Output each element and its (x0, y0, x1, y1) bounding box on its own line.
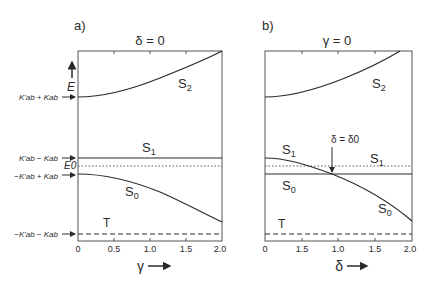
panel-b-title: γ = 0 (323, 33, 352, 48)
panel-b: b) γ = 0 δ = δ0 S2 S1 S1 S0 S0 T 0 1.5 1… (262, 18, 416, 274)
label-s0: S0 (125, 184, 139, 201)
panel-a-title: δ = 0 (135, 33, 164, 48)
label-t-b: T (278, 217, 286, 231)
marker-e0: E0 (64, 160, 77, 171)
label-s2-b: S2 (372, 76, 386, 93)
panel-b-label: b) (262, 18, 274, 33)
label-s2: S2 (178, 76, 192, 93)
label-t: T (103, 216, 111, 230)
svg-text:0: 0 (75, 244, 80, 254)
label-s1: S1 (142, 140, 156, 157)
svg-text:1.5: 1.5 (180, 244, 193, 254)
marker-neg-kab-minus: −K'ab − Kab (14, 230, 58, 239)
panel-a-x-ticks: 0 0.5 1.0 1.5 2.0 (75, 244, 226, 254)
panel-b-x-ticks: 0 1.5 1.0 1.5 2.0 (262, 244, 416, 254)
curve-s2 (78, 51, 222, 97)
curve-s0 (78, 174, 222, 222)
svg-text:1.5: 1.5 (296, 244, 309, 254)
svg-text:2.0: 2.0 (214, 244, 227, 254)
panel-a: a) δ = 0 E K'ab + Kab K'ab − Kab E0 −K'a… (14, 18, 226, 274)
annotation-delta0: δ = δ0 (331, 134, 360, 145)
label-s0-left: S0 (282, 178, 296, 195)
svg-text:2.0: 2.0 (404, 244, 417, 254)
x-axis-label-gamma: γ (137, 258, 144, 274)
label-s1-left: S1 (282, 142, 296, 159)
label-s1-right: S1 (370, 151, 384, 168)
svg-text:1.5: 1.5 (369, 244, 382, 254)
y-axis-label: E (67, 80, 76, 94)
marker-kab-plus: K'ab + Kab (19, 93, 59, 102)
svg-text:1.0: 1.0 (144, 244, 157, 254)
diagram-canvas: a) δ = 0 E K'ab + Kab K'ab − Kab E0 −K'a… (0, 0, 433, 282)
marker-neg-kab-plus: −K'ab + Kab (14, 172, 58, 181)
panel-b-ticks (302, 51, 375, 241)
svg-text:0.5: 0.5 (108, 244, 121, 254)
svg-text:1.0: 1.0 (332, 244, 345, 254)
panel-a-label: a) (74, 18, 86, 33)
marker-kab-minus: K'ab − Kab (19, 154, 59, 163)
x-axis-label-delta: δ (335, 258, 343, 274)
svg-text:0: 0 (262, 244, 267, 254)
left-markers: K'ab + Kab K'ab − Kab E0 −K'ab + Kab −K'… (14, 93, 76, 239)
